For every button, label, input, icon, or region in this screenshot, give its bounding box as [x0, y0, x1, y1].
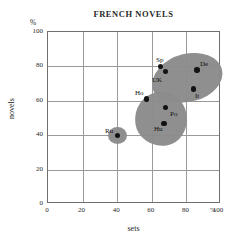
x-tick-20: 20 [65, 206, 99, 214]
y-axis-unit-marker: % [30, 18, 36, 27]
y-tick-60: 60 [15, 96, 43, 104]
chart-figure: FRENCH NOVELS % novels sets 100 80 60 40… [0, 0, 238, 244]
x-axis-title: sets [47, 224, 220, 233]
data-label-it: It [195, 93, 199, 100]
y-tick-20: 20 [15, 165, 43, 173]
x-tick-0: 0 [30, 206, 64, 214]
chart-title: FRENCH NOVELS [47, 9, 220, 19]
plot-area: Sp UK De It Ho Po Hu Ru [47, 31, 220, 203]
y-axis-tick-labels: 100 80 60 40 20 0 [12, 31, 43, 203]
x-tick-80: 80 [168, 206, 202, 214]
y-tick-100: 100 [15, 27, 43, 35]
x-axis-tick-labels: 0 20 40 60 80 100 [47, 206, 220, 220]
x-tick-60: 60 [134, 206, 168, 214]
data-label-po: Po [170, 111, 177, 118]
y-tick-80: 80 [15, 61, 43, 69]
x-tick-40: 40 [99, 206, 133, 214]
gridline-vertical-40 [117, 32, 118, 202]
data-label-uk: UK [152, 77, 162, 84]
x-axis-unit-marker: % [210, 206, 216, 214]
data-label-de: De [200, 61, 208, 68]
data-point-de[interactable] [194, 67, 199, 72]
data-point-it[interactable] [191, 86, 196, 91]
gridline-horizontal-40 [48, 135, 219, 136]
data-point-ru[interactable] [115, 133, 120, 138]
data-label-ru: Ru [105, 128, 113, 135]
data-point-ho[interactable] [144, 96, 149, 101]
data-label-ho: Ho [135, 90, 144, 97]
gridline-horizontal-20 [48, 170, 219, 171]
x-tick-100: 100 [201, 206, 235, 214]
gridline-vertical-20 [83, 32, 84, 202]
data-label-sp: Sp [156, 57, 163, 64]
y-tick-40: 40 [15, 130, 43, 138]
data-label-hu: Hu [154, 126, 163, 133]
